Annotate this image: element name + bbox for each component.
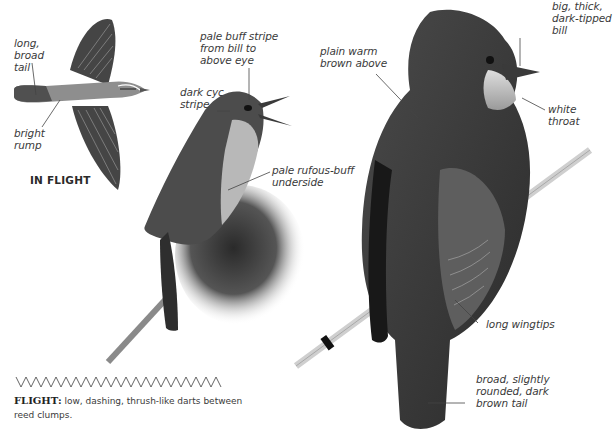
upperparts-label: plain warm brown above: [320, 45, 387, 69]
perched-bird-small-illustration: [108, 68, 305, 362]
tail-label: broad, slightly rounded, dark brown tail: [476, 373, 550, 409]
supercilium-label: pale buff stripe from bill to above eye: [200, 30, 278, 66]
flight-description: FLIGHT: low, dashing, thrush-like darts …: [14, 394, 244, 422]
bill-label: big, thick, dark-tipped bill: [552, 0, 612, 36]
perched-bird-large-illustration: [296, 10, 590, 429]
throat-label: white throat: [548, 103, 579, 127]
in-flight-caption: IN FLIGHT: [30, 174, 91, 186]
zigzag-flight-path-icon: [16, 377, 221, 387]
underside-label: pale rufous-buff underside: [272, 164, 354, 188]
wingtips-label: long wingtips: [486, 318, 555, 330]
illustration-canvas: [0, 0, 613, 434]
eye-stripe-label: dark cyc stripe: [180, 86, 224, 110]
flight-tail-label: long, broad tail: [14, 37, 44, 73]
flight-rump-label: bright rump: [14, 127, 45, 151]
flight-heading: FLIGHT:: [14, 395, 62, 406]
